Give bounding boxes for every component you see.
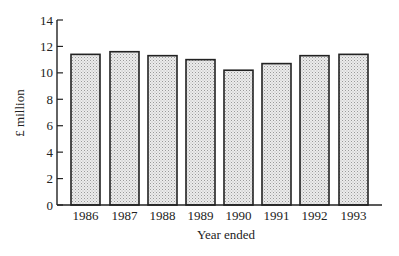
bar-1991 bbox=[262, 64, 291, 205]
y-axis-title: £ million bbox=[12, 89, 27, 137]
bar-1992 bbox=[300, 56, 329, 205]
y-tick-label: 6 bbox=[47, 118, 54, 133]
y-tick-label: 8 bbox=[47, 92, 54, 107]
x-tick-label: 1987 bbox=[112, 208, 139, 223]
bar-1988 bbox=[148, 56, 177, 205]
x-tick-label: 1986 bbox=[73, 208, 100, 223]
axes-group bbox=[57, 20, 382, 205]
x-axis-title: Year ended bbox=[197, 227, 256, 242]
bar-1986 bbox=[71, 54, 100, 205]
bars-group bbox=[71, 52, 368, 205]
y-tick-label: 12 bbox=[40, 39, 53, 54]
bar-chart: 1986198719881989199019911992199302468101… bbox=[0, 0, 399, 256]
x-tick-label: 1991 bbox=[264, 208, 290, 223]
y-tick-label: 0 bbox=[47, 198, 54, 213]
bar-1987 bbox=[110, 52, 139, 205]
x-tick-label: 1990 bbox=[226, 208, 252, 223]
bar-1989 bbox=[186, 60, 215, 205]
x-tick-label: 1988 bbox=[150, 208, 176, 223]
y-tick-label: 10 bbox=[40, 65, 53, 80]
bar-1993 bbox=[339, 54, 368, 205]
y-tick-label: 4 bbox=[47, 145, 54, 160]
x-tick-label: 1992 bbox=[302, 208, 328, 223]
bar-1990 bbox=[224, 70, 253, 205]
x-tick-label: 1989 bbox=[188, 208, 214, 223]
y-tick-label: 14 bbox=[40, 13, 54, 28]
y-tick-label: 2 bbox=[47, 171, 54, 186]
x-tick-label: 1993 bbox=[341, 208, 367, 223]
